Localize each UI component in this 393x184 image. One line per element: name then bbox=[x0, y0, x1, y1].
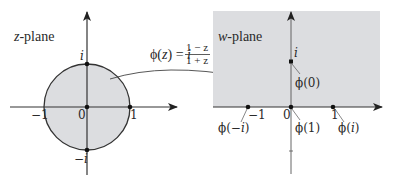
w-label-phi-neg-i: ϕ(−i) bbox=[218, 121, 249, 135]
mapping-formula-denominator: 1 + z bbox=[186, 54, 208, 66]
z-label-neg-i: −i bbox=[74, 152, 88, 166]
w-label-one: 1 bbox=[331, 108, 339, 122]
mapping-formula-numerator: 1 − z bbox=[186, 41, 208, 53]
w-label-i: i bbox=[294, 46, 298, 60]
z-plane-title: z-plane bbox=[13, 29, 54, 44]
conformal-map-diagram: z-plane 0 1 −1 i −i ϕ(z) = i 1 − z 1 + z bbox=[0, 0, 393, 184]
z-label-i: i bbox=[80, 49, 84, 63]
w-point-i bbox=[289, 60, 293, 64]
z-label-one: 1 bbox=[130, 108, 138, 122]
z-point-i bbox=[85, 62, 90, 67]
w-label-phi-0: ϕ(0) bbox=[295, 76, 320, 90]
z-plane-panel: z-plane 0 1 −1 i −i bbox=[10, 12, 177, 175]
mapping-formula-lhs: ϕ(z) = i bbox=[150, 47, 191, 63]
w-plane-title: w-plane bbox=[218, 29, 262, 44]
w-label-neg-one: −1 bbox=[248, 108, 266, 122]
z-label-neg-one: −1 bbox=[31, 108, 49, 122]
w-label-origin: 0 bbox=[283, 108, 291, 122]
z-label-origin: 0 bbox=[78, 108, 86, 122]
w-label-phi-i: ϕ(i) bbox=[338, 121, 359, 135]
w-label-phi-1: ϕ(1) bbox=[295, 121, 320, 135]
w-plane-panel: w-plane i 0 1 −1 ϕ(0) ϕ(−i) ϕ(1) ϕ(i) bbox=[213, 11, 382, 174]
leader-phi-1 bbox=[292, 109, 300, 120]
